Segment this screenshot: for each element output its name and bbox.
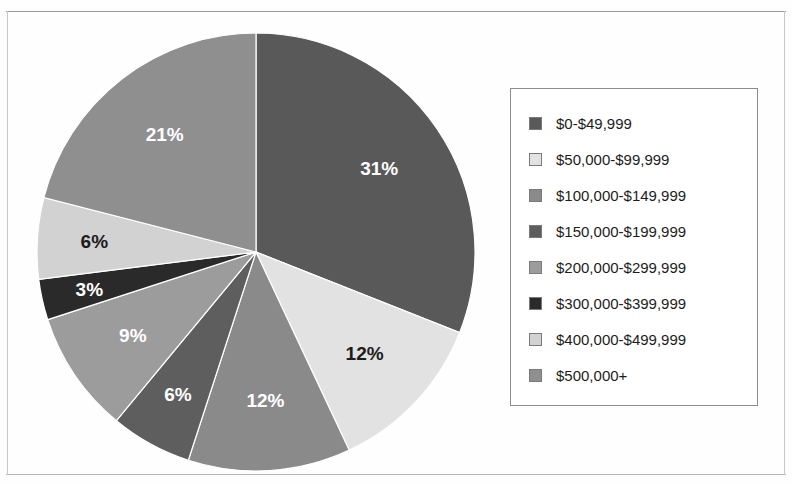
legend-item-label: $50,000-$99,999 (556, 151, 669, 168)
page-rule-bottom (6, 474, 786, 475)
legend-swatch-icon (529, 261, 542, 274)
legend-item[interactable]: $100,000-$149,999 (511, 177, 757, 213)
legend-item[interactable]: $0-$49,999 (511, 105, 757, 141)
legend-item-label: $500,000+ (556, 367, 627, 384)
legend-item[interactable]: $200,000-$299,999 (511, 249, 757, 285)
legend-item-label: $400,000-$499,999 (556, 331, 686, 348)
pie-slice-label: 9% (119, 325, 147, 346)
page-rule-top (6, 11, 786, 12)
pie-slice-label: 31% (360, 158, 398, 179)
legend-swatch-icon (529, 297, 542, 310)
pie-chart: 31%12%12%6%9%3%6%21% (36, 32, 476, 472)
pie-slice-label: 21% (146, 124, 184, 145)
legend: $0-$49,999 $50,000-$99,999 $100,000-$149… (510, 88, 758, 406)
legend-item-label: $0-$49,999 (556, 115, 632, 132)
pie-slice-label: 6% (164, 384, 192, 405)
legend-item-label: $300,000-$399,999 (556, 295, 686, 312)
legend-item-label: $100,000-$149,999 (556, 187, 686, 204)
legend-item[interactable]: $300,000-$399,999 (511, 285, 757, 321)
pie-slice-label: 12% (246, 390, 284, 411)
legend-item-label: $200,000-$299,999 (556, 259, 686, 276)
legend-item[interactable]: $500,000+ (511, 357, 757, 393)
pie-slice-label: 6% (81, 231, 109, 252)
legend-swatch-icon (529, 369, 542, 382)
legend-swatch-icon (529, 225, 542, 238)
legend-item[interactable]: $150,000-$199,999 (511, 213, 757, 249)
pie-chart-svg: 31%12%12%6%9%3%6%21% (36, 32, 476, 472)
pie-slice-label: 12% (346, 343, 384, 364)
legend-swatch-icon (529, 117, 542, 130)
legend-item[interactable]: $50,000-$99,999 (511, 141, 757, 177)
page-rule-right (784, 11, 785, 475)
legend-item[interactable]: $400,000-$499,999 (511, 321, 757, 357)
legend-item-label: $150,000-$199,999 (556, 223, 686, 240)
pie-slice-label: 3% (76, 279, 104, 300)
legend-swatch-icon (529, 333, 542, 346)
page-rule-left (7, 11, 8, 475)
legend-swatch-icon (529, 189, 542, 202)
legend-swatch-icon (529, 153, 542, 166)
